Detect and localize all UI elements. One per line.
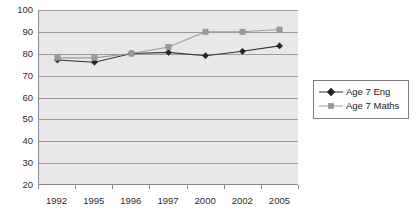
x-axis-tick-label: 1997 bbox=[157, 195, 178, 206]
legend-label: Age 7 Eng bbox=[346, 87, 390, 97]
data-point-diamond-icon bbox=[276, 43, 282, 49]
y-axis-tick-label: 90 bbox=[3, 27, 33, 37]
data-point-square-icon bbox=[166, 44, 171, 49]
y-axis-tick-label: 60 bbox=[3, 93, 33, 103]
x-axis-tick-label: 1992 bbox=[46, 195, 67, 206]
x-axis-tick-mark bbox=[261, 185, 262, 189]
data-point-square-icon bbox=[240, 29, 245, 34]
data-point-square-icon bbox=[277, 27, 282, 32]
x-axis-tick-label: 2002 bbox=[232, 195, 253, 206]
x-axis-tick-mark bbox=[149, 185, 150, 189]
data-point-square-icon bbox=[129, 51, 134, 56]
legend-marker-square-icon bbox=[319, 100, 343, 112]
x-axis-tick-mark bbox=[75, 185, 76, 189]
x-axis-tick-label: 1996 bbox=[120, 195, 141, 206]
x-axis-tick-label: 2000 bbox=[195, 195, 216, 206]
legend-item-age-7-maths[interactable]: Age 7 Maths bbox=[319, 99, 403, 113]
data-point-diamond-icon bbox=[202, 53, 208, 59]
x-axis-tick-label: 1995 bbox=[83, 195, 104, 206]
data-point-square-icon bbox=[92, 55, 97, 60]
plot-area bbox=[38, 10, 298, 185]
y-axis-tick-label: 70 bbox=[3, 71, 33, 81]
legend-item-age-7-eng[interactable]: Age 7 Eng bbox=[319, 85, 403, 99]
data-point-diamond-icon bbox=[239, 48, 245, 54]
line-chart: 2030405060708090100 19921995199619972000… bbox=[0, 0, 419, 218]
y-axis-tick-label: 30 bbox=[3, 158, 33, 168]
data-point-diamond-icon bbox=[165, 49, 171, 55]
x-axis-tick-mark bbox=[224, 185, 225, 189]
series-layer bbox=[39, 10, 298, 184]
y-axis-tick-label: 100 bbox=[3, 5, 33, 15]
x-axis-tick-mark bbox=[298, 185, 299, 189]
legend-marker-diamond-icon bbox=[319, 86, 343, 98]
legend-label: Age 7 Maths bbox=[346, 101, 399, 111]
data-point-square-icon bbox=[203, 29, 208, 34]
y-axis-tick-label: 40 bbox=[3, 137, 33, 147]
x-axis-tick-mark bbox=[187, 185, 188, 189]
x-axis-tick-label: 2005 bbox=[269, 195, 290, 206]
y-axis-tick-label: 20 bbox=[3, 180, 33, 190]
y-axis-tick-label: 80 bbox=[3, 49, 33, 59]
x-axis-tick-mark bbox=[112, 185, 113, 189]
x-axis-tick-mark bbox=[38, 185, 39, 189]
y-axis-tick-label: 50 bbox=[3, 115, 33, 125]
legend: Age 7 Eng Age 7 Maths bbox=[313, 80, 409, 119]
data-point-square-icon bbox=[55, 55, 60, 60]
